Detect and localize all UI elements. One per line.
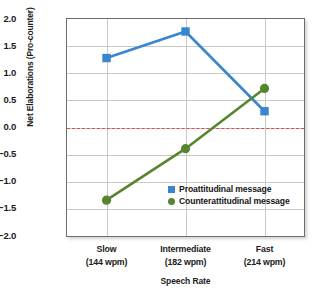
y-tick-label: −0.5 xyxy=(0,148,16,159)
legend-item-label: Counterattitudinal message xyxy=(179,196,290,206)
series-line-1 xyxy=(107,31,265,111)
y-tick-label: −1.5 xyxy=(0,202,16,213)
legend-square-icon xyxy=(168,186,175,193)
y-tick-label: −2.0 xyxy=(0,230,16,241)
y-tick-label: −1.0 xyxy=(0,175,16,186)
legend-item-proattitudinal: Proattitudinal message xyxy=(168,184,290,194)
chart-legend: Proattitudinal message Counterattitudina… xyxy=(168,184,290,208)
legend-circle-icon xyxy=(168,198,175,205)
legend-item-label: Proattitudinal message xyxy=(179,184,271,194)
y-tick-label: 0.5 xyxy=(0,94,16,105)
x-tick-label: Fast(214 wpm) xyxy=(217,243,313,268)
data-point-marker xyxy=(260,107,268,115)
x-tick-label-line1: Slow xyxy=(97,244,117,254)
x-tick-label-line1: Intermediate xyxy=(160,244,211,254)
x-tick-label-line2: (214 wpm) xyxy=(217,256,313,269)
legend-item-counterattitudinal: Counterattitudinal message xyxy=(168,196,290,206)
x-axis-label: Speech Rate xyxy=(66,276,305,286)
y-tick-label: 1.0 xyxy=(0,67,16,78)
data-point-marker xyxy=(181,27,189,35)
y-tick-label: 2.0 xyxy=(0,13,16,24)
y-tick-label: 1.5 xyxy=(0,40,16,51)
data-point-marker xyxy=(102,54,110,62)
data-point-marker xyxy=(181,144,190,153)
chart-figure: Net Elaborations (Pro-counter) 2.01.51.0… xyxy=(0,0,326,298)
data-point-marker xyxy=(102,196,111,205)
x-tick-label-line1: Fast xyxy=(256,244,274,254)
data-point-marker xyxy=(260,84,269,93)
y-tick-label: 0.0 xyxy=(0,121,16,132)
